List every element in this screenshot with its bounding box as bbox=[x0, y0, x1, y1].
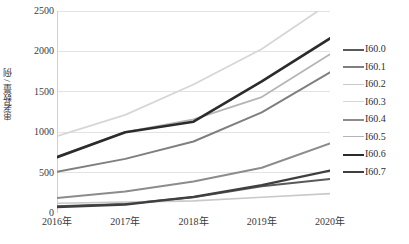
legend-label: I60.2 bbox=[364, 78, 386, 89]
x-tick-label: 2017年 bbox=[95, 216, 155, 228]
legend-label: I60.0 bbox=[364, 43, 386, 54]
legend-swatch-icon bbox=[343, 44, 364, 54]
y-tick-label: 2500 bbox=[20, 6, 54, 16]
y-axis-tick-labels: 05001000150020002500 bbox=[18, 0, 54, 244]
y-tick-label: 2000 bbox=[20, 46, 54, 56]
legend-item-I60-1[interactable]: I60.1 bbox=[343, 58, 409, 76]
x-tick-label: 2019年 bbox=[232, 216, 292, 228]
plot-area bbox=[57, 11, 330, 213]
y-tick-label: 1500 bbox=[20, 87, 54, 97]
legend-swatch-icon bbox=[343, 96, 364, 106]
chart-legend: I60.0I60.1I60.2I60.3I60.4I60.5I60.6I60.7 bbox=[343, 40, 409, 180]
legend-label: I60.7 bbox=[364, 166, 386, 177]
legend-label: I60.3 bbox=[364, 96, 386, 107]
y-tick-label: 500 bbox=[20, 168, 54, 178]
legend-item-I60-4[interactable]: I60.4 bbox=[343, 110, 409, 128]
x-tick-label: 2018年 bbox=[164, 216, 224, 228]
legend-item-I60-0[interactable]: I60.0 bbox=[343, 40, 409, 58]
legend-swatch-icon bbox=[343, 114, 364, 124]
legend-label: I60.6 bbox=[364, 148, 386, 159]
legend-label: I60.4 bbox=[364, 113, 386, 124]
legend-label: I60.1 bbox=[364, 61, 386, 72]
line-chart: 患者数量 / 例 05001000150020002500 2016年2017年… bbox=[0, 0, 409, 244]
legend-swatch-icon bbox=[343, 166, 364, 176]
series-lines bbox=[57, 11, 330, 207]
x-axis-tick-labels: 2016年2017年2018年2019年2020年 bbox=[57, 216, 330, 238]
legend-item-I60-3[interactable]: I60.3 bbox=[343, 93, 409, 111]
series-line-I60-6 bbox=[57, 38, 330, 157]
legend-swatch-icon bbox=[343, 131, 364, 141]
legend-swatch-icon bbox=[343, 149, 364, 159]
legend-swatch-icon bbox=[343, 79, 364, 89]
x-tick-label: 2016年 bbox=[27, 216, 87, 228]
plot-svg bbox=[57, 11, 330, 213]
x-tick-label: 2020年 bbox=[300, 216, 360, 228]
y-tick-label: 1000 bbox=[20, 127, 54, 137]
legend-item-I60-6[interactable]: I60.6 bbox=[343, 145, 409, 163]
series-line-I60-3 bbox=[57, 11, 330, 136]
y-axis-title: 患者数量 / 例 bbox=[2, 68, 18, 120]
legend-item-I60-7[interactable]: I60.7 bbox=[343, 163, 409, 181]
legend-item-I60-5[interactable]: I60.5 bbox=[343, 128, 409, 146]
legend-label: I60.5 bbox=[364, 131, 386, 142]
legend-item-I60-2[interactable]: I60.2 bbox=[343, 75, 409, 93]
legend-swatch-icon bbox=[343, 61, 364, 71]
series-line-I60-4 bbox=[57, 144, 330, 199]
